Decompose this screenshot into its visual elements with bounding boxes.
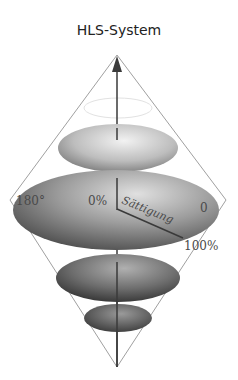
- hls-double-cone-diagram: 180° 0% Sättigung 0 100%: [0, 0, 238, 380]
- label-saturation-100: 100%: [184, 239, 218, 253]
- label-saturation-0: 0%: [88, 194, 107, 208]
- label-hue-180: 180°: [16, 194, 45, 208]
- white-level-ellipse: [84, 98, 152, 118]
- light-level-ellipse: [58, 124, 178, 172]
- darkest-level-ellipse: [84, 304, 152, 332]
- mid-level-ellipse: [13, 170, 219, 250]
- label-hue-0: 0: [200, 201, 208, 215]
- dark-level-ellipse: [56, 254, 180, 302]
